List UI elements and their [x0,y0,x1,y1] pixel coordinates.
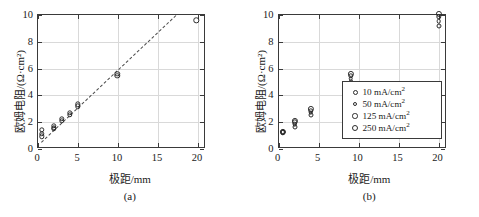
x-tick-mark [279,143,280,147]
x-tick-mark [118,143,119,147]
x-tick-mark [359,143,360,147]
legend-label: 125 mA/cm2 [363,110,410,122]
x-tick-label: 0 [34,152,39,163]
x-tick-mark [78,143,79,147]
gridline-horizontal [38,69,204,70]
panel-b: 欧姆电阻/(Ω·cm²) 极距/mm (b) 10 mA/cm250 mA/cm… [240,0,479,217]
x-tick-mark [38,143,39,147]
x-tick-mark [439,143,440,147]
legend-box: 10 mA/cm250 mA/cm2125 mA/cm2250 mA/cm2 [342,81,442,139]
data-point-marker [436,19,441,24]
y-tick-mark [38,69,42,70]
data-point-marker [279,129,285,135]
y-tick-mark [441,42,445,43]
x-tick-mark [319,15,320,19]
y-tick-label: 4 [256,89,274,100]
x-tick-mark [118,15,119,19]
y-tick-mark [200,15,204,16]
gridline-vertical [198,15,199,147]
x-tick-label: 5 [74,152,79,163]
figure-container: 欧姆电阻/(Ω·cm²) 极距/mm (a) 024681005101520 欧… [0,0,479,217]
legend-label-exponent: 2 [406,109,410,117]
y-tick-mark [200,95,204,96]
legend-item[interactable]: 50 mA/cm2 [348,98,435,110]
legend-marker-cell [348,102,363,107]
y-tick-mark [38,122,42,123]
data-point-marker [67,112,72,117]
legend-item[interactable]: 250 mA/cm2 [348,122,435,134]
y-tick-label: 6 [256,62,274,73]
y-tick-mark [279,42,283,43]
y-tick-mark [200,122,204,123]
gridline-horizontal [279,42,445,43]
gridline-vertical [118,15,119,147]
y-tick-mark [279,122,283,123]
legend-label-exponent: 2 [402,97,406,105]
plot-area-a [37,14,205,148]
x-tick-mark [198,143,199,147]
gridline-vertical [78,15,79,147]
y-tick-mark [279,149,283,150]
x-tick-label: 20 [192,152,203,163]
x-tick-mark [399,143,400,147]
x-tick-label: 15 [392,152,403,163]
x-tick-mark [158,143,159,147]
x-tick-mark [158,15,159,19]
data-point-marker [436,23,441,28]
y-tick-label: 2 [15,116,33,127]
x-tick-label: 5 [315,152,320,163]
y-tick-label: 10 [256,9,274,20]
panel-caption-b: (b) [250,190,479,202]
panel-caption-a: (a) [10,190,250,202]
legend-label-exponent: 2 [406,121,410,129]
gridline-horizontal [38,42,204,43]
legend-circle-icon [353,102,358,107]
x-tick-mark [359,15,360,19]
y-tick-mark [38,95,42,96]
x-axis-title-a: 极距/mm [10,170,250,186]
gridline-vertical [158,15,159,147]
x-tick-label: 10 [112,152,123,163]
trend-line [41,15,176,142]
y-tick-mark [200,42,204,43]
y-tick-label: 4 [15,89,33,100]
y-tick-mark [279,69,283,70]
y-tick-label: 6 [15,62,33,73]
y-tick-mark [441,69,445,70]
legend-circle-icon [352,113,357,118]
x-tick-label: 15 [152,152,163,163]
gridline-vertical [319,15,320,147]
y-tick-mark [279,95,283,96]
y-tick-label: 2 [256,116,274,127]
legend-label: 50 mA/cm2 [363,98,406,110]
legend-marker-cell [348,90,363,95]
x-tick-mark [319,143,320,147]
data-point-marker [51,126,56,131]
legend-marker-cell [348,125,363,131]
legend-item[interactable]: 10 mA/cm2 [348,86,435,98]
y-tick-mark [38,42,42,43]
y-tick-mark [200,149,204,150]
x-axis-title-b: 极距/mm [250,170,479,186]
x-tick-mark [38,15,39,19]
legend-circle-icon [353,90,358,95]
y-tick-label: 0 [15,143,33,154]
legend-label: 250 mA/cm2 [363,122,410,134]
legend-circle-icon [352,125,358,131]
y-tick-mark [441,15,445,16]
y-tick-mark [441,149,445,150]
y-tick-label: 8 [15,35,33,46]
x-tick-label: 0 [275,152,280,163]
x-tick-label: 20 [432,152,443,163]
data-point-marker [75,103,80,108]
y-tick-label: 0 [256,143,274,154]
x-tick-label: 10 [352,152,363,163]
panel-a: 欧姆电阻/(Ω·cm²) 极距/mm (a) 024681005101520 [0,0,240,217]
data-point-marker [114,73,119,78]
y-tick-mark [200,69,204,70]
legend-marker-cell [348,113,363,118]
legend-item[interactable]: 125 mA/cm2 [348,110,435,122]
x-tick-mark [78,15,79,19]
x-tick-mark [399,15,400,19]
legend-label: 10 mA/cm2 [363,86,406,98]
